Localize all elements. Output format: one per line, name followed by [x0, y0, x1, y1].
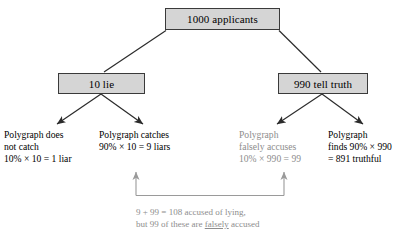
connector-lie-to-caught: [101, 94, 143, 124]
leaf-line: finds 90% × 990: [328, 141, 392, 153]
node-truthtellers-label: 990 tell truth: [294, 78, 352, 90]
summary-caption: 9 + 99 = 108 accused of lying, but 99 of…: [136, 206, 259, 230]
leaf-line: Polygraph does: [4, 129, 72, 141]
leaf-polygraph-finds-truthful: Polygraph finds 90% × 990 = 891 truthful: [328, 129, 392, 166]
leaf-polygraph-does-not-catch: Polygraph does not catch 10% × 10 = 1 li…: [4, 129, 72, 166]
leaf-line: Polygraph: [328, 129, 392, 141]
leaf-line: 10% × 990 = 99: [239, 153, 301, 165]
leaf-line: = 891 truthful: [328, 153, 392, 165]
connector-root-to-left: [104, 31, 166, 73]
node-liars[interactable]: 10 lie: [58, 73, 145, 94]
connector-root-to-right: [279, 31, 321, 73]
node-liars-label: 10 lie: [89, 78, 114, 90]
leaf-line: not catch: [4, 141, 72, 153]
leaf-line: falsely accuses: [239, 141, 301, 153]
summary-emphasis-falsely: falsely: [205, 219, 229, 229]
summary-line-2-suffix: accused: [229, 219, 260, 229]
summary-line-2: but 99 of these are falsely accused: [136, 218, 259, 230]
connector-truth-to-falselyaccused: [277, 94, 322, 124]
probability-tree-diagram: 1000 applicants 10 lie 990 tell truth Po…: [0, 0, 417, 240]
summary-line-2-prefix: but 99 of these are: [136, 219, 205, 229]
leaf-line: 90% × 10 = 9 liars: [99, 141, 170, 153]
connector-lie-to-notcaught: [57, 94, 101, 124]
leaf-polygraph-catches: Polygraph catches 90% × 10 = 9 liars: [99, 129, 170, 153]
leaf-line: 10% × 10 = 1 liar: [4, 153, 72, 165]
leaf-line: Polygraph: [239, 129, 301, 141]
connector-truth-to-truthful: [322, 94, 363, 124]
node-root-applicants[interactable]: 1000 applicants: [165, 8, 280, 30]
leaf-polygraph-falsely-accuses: Polygraph falsely accuses 10% × 990 = 99: [239, 129, 301, 166]
summary-line-1: 9 + 99 = 108 accused of lying,: [136, 206, 259, 218]
connector-layer: [0, 0, 417, 240]
leaf-line: Polygraph catches: [99, 129, 170, 141]
node-root-label: 1000 applicants: [187, 13, 258, 25]
node-truthtellers[interactable]: 990 tell truth: [278, 73, 368, 94]
